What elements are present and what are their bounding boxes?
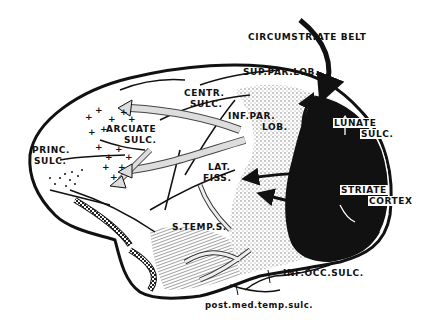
label-centr-sulc-2: SULC. [190,99,223,109]
label-lat-fiss-1: LAT. [208,162,231,172]
svg-text:+: + [95,142,103,152]
svg-text:+: + [110,172,118,182]
svg-text:+: + [88,127,96,137]
label-s-temp-s: S.TEMP.S. [172,222,227,232]
label-striate-cortex-2: CORTEX [368,196,414,206]
label-circumstriate-belt: CIRCUMSTRIATE BELT [248,32,367,42]
label-princ-sulc-2: SULC. [34,156,67,166]
svg-text:+: + [102,162,110,172]
label-arcuate-sulc-2: SULC. [124,135,157,145]
svg-text:+: + [125,152,133,162]
label-sup-par-lob: SUP.PAR.LOB. [243,67,319,77]
svg-text:+: + [108,114,116,124]
svg-text:+: + [120,107,128,117]
svg-text:+: + [105,152,113,162]
label-lunate-sulc-2: SULC. [360,129,395,139]
label-princ-sulc-1: PRINC. [32,145,70,155]
label-inf-occ-sulc: INF.OCC.SULC. [283,268,364,278]
label-inf-par-lob-1: INF.PAR. [228,111,275,121]
label-centr-sulc-1: CENTR. [184,88,225,98]
svg-text:+: + [118,162,126,172]
label-striate-cortex-1: STRIATE [340,185,388,195]
label-post-med-temp-sulc: post.med.temp.sulc. [205,300,313,310]
brain-diagram: +++ +++ +++ +++ ++ CIRCUMSTRIATE BELT SU… [0,0,422,320]
svg-text:+: + [85,112,93,122]
label-lat-fiss-2: FISS. [203,173,231,183]
svg-text:+: + [95,105,103,115]
label-arcuate-sulc-1: ARCUATE [106,124,156,134]
svg-text:+: + [115,144,123,154]
label-lunate-sulc-1: LUNATE [333,118,377,128]
label-inf-par-lob-2: LOB. [262,122,288,132]
svg-text:+: + [128,114,136,124]
